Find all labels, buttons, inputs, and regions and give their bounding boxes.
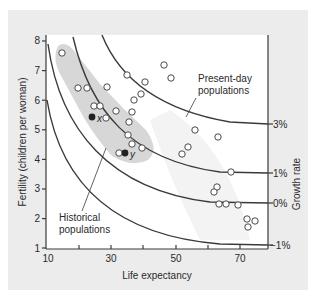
svg-text:3%: 3% <box>273 119 288 130</box>
svg-text:−1%: −1% <box>270 240 290 251</box>
fertility-life-expectancy-chart: 8 7 6 5 4 3 2 1 10 30 50 70 Life expecta… <box>0 0 316 298</box>
svg-text:0%: 0% <box>273 198 288 209</box>
svg-text:1: 1 <box>34 243 40 254</box>
svg-text:10: 10 <box>42 253 54 264</box>
svg-text:30: 30 <box>105 253 117 264</box>
svg-text:7: 7 <box>34 65 40 76</box>
svg-text:5: 5 <box>34 124 40 135</box>
svg-text:4: 4 <box>34 154 40 165</box>
historical-label-1: Historical <box>59 212 100 223</box>
point-x-label: x <box>96 113 103 124</box>
point-y-label: y <box>129 149 136 160</box>
svg-text:3: 3 <box>34 183 40 194</box>
svg-text:1%: 1% <box>273 168 288 179</box>
point-x-marker <box>89 114 96 121</box>
svg-text:70: 70 <box>234 253 246 264</box>
point-y-marker <box>122 150 129 157</box>
x-axis-title: Life expectancy <box>122 270 192 281</box>
svg-text:8: 8 <box>34 35 40 46</box>
present-day-label-2: populations <box>198 85 249 96</box>
y-axis-title: Fertility (children per woman) <box>17 78 28 207</box>
historical-label-2: populations <box>59 224 110 235</box>
svg-text:6: 6 <box>34 95 40 106</box>
present-day-label-1: Present-day <box>198 73 252 84</box>
svg-text:2: 2 <box>34 213 40 224</box>
y2-axis-title: Growth rate <box>291 157 302 210</box>
svg-text:50: 50 <box>170 253 182 264</box>
